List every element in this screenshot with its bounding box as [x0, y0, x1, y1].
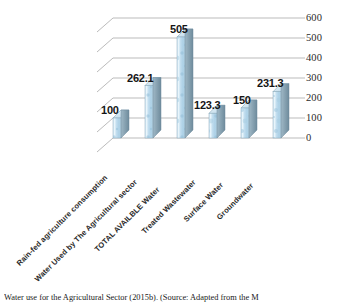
y-axis-tick-500: 500: [306, 33, 339, 43]
bar-total-availble-water: [177, 29, 193, 138]
y-axis-tick-0: 0: [306, 133, 339, 143]
chart-plot-area: 100 262.1 505 123.3 150 231.3 600 500 40…: [0, 0, 339, 160]
y-axis-tick-200: 200: [306, 93, 339, 103]
figure-caption: Water use for the Agricultural Sector (2…: [4, 292, 338, 303]
data-label-3: 123.3: [194, 99, 221, 111]
y-axis-tick-400: 400: [306, 53, 339, 63]
bar-groundwater: [273, 84, 289, 138]
x-axis-category-labels: Rain-fed agriculture consumption Water U…: [0, 150, 339, 280]
data-label-1: 262.1: [127, 72, 154, 84]
data-label-0: 100: [101, 104, 119, 116]
bar-water-used-by-the-agricultural-sector: [145, 78, 161, 138]
data-label-2: 505: [170, 23, 188, 35]
y-axis-tick-100: 100: [306, 113, 339, 123]
water-use-bar-chart-figure: 100 262.1 505 123.3 150 231.3 600 500 40…: [0, 0, 339, 308]
y-axis-tick-300: 300: [306, 73, 339, 83]
data-label-5: 231.3: [257, 77, 284, 89]
x-axis-label-treated-wastewater: Treated Wastewater: [140, 178, 198, 236]
y-axis-tick-600: 600: [306, 13, 339, 23]
data-label-4: 150: [233, 94, 251, 106]
